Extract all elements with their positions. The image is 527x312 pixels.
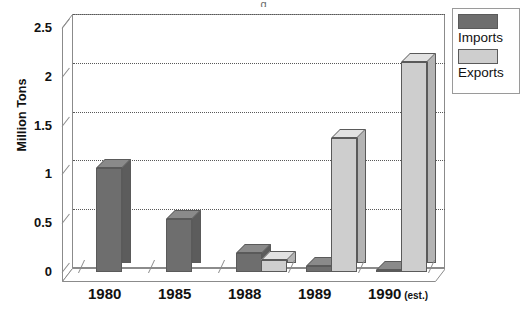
bar-side-face [427, 53, 436, 263]
bar-front-face [261, 260, 287, 272]
bar-chart: g Million Tons 00.511.522.5 198019851988… [0, 0, 527, 312]
x-label-1988: 1988 [228, 285, 261, 302]
x-label-text: 1988 [228, 285, 261, 302]
x-label-suffix: (est.) [401, 290, 428, 301]
x-label-1989: 1989 [298, 285, 331, 302]
legend-swatch-exports [458, 49, 498, 64]
x-axis-labels: 19801985198819891990 (est.) [62, 285, 462, 309]
y-tick-label: 2.5 [8, 21, 52, 34]
x-label-text: 1990 [368, 285, 401, 302]
bar-imports-1988[interactable] [236, 253, 262, 272]
y-tick-label: 0 [8, 265, 52, 278]
bar-series-group [62, 14, 445, 282]
legend-item-imports: Imports [458, 14, 514, 46]
bar-exports-1989[interactable] [331, 138, 357, 272]
legend-item-exports: Exports [458, 49, 514, 81]
bar-imports-1980[interactable] [96, 168, 122, 272]
x-label-text: 1980 [88, 285, 121, 302]
bar-front-face [331, 138, 357, 272]
x-label-text: 1989 [298, 285, 331, 302]
y-tick-label: 2 [8, 70, 52, 83]
legend-label-imports: Imports [458, 30, 514, 46]
bar-front-face [236, 253, 262, 272]
bar-front-face [376, 270, 402, 272]
y-tick-label: 1 [8, 167, 52, 180]
plot-area [62, 14, 445, 282]
bar-front-face [401, 62, 427, 272]
y-tick-label: 1.5 [8, 119, 52, 132]
bar-side-face [122, 159, 131, 263]
bar-front-face [96, 168, 122, 272]
x-label-1990: 1990 (est.) [368, 285, 428, 302]
bar-front-face [306, 266, 332, 272]
bar-front-face [166, 219, 192, 272]
legend-swatch-imports [458, 14, 498, 29]
x-label-1985: 1985 [158, 285, 191, 302]
chart-legend: Imports Exports [452, 8, 520, 94]
y-axis-tick-labels: 00.511.522.5 [8, 0, 52, 312]
chart-title-clipped: g [0, 0, 527, 7]
y-tick-label: 0.5 [8, 216, 52, 229]
bar-imports-1985[interactable] [166, 219, 192, 272]
bar-side-face [192, 210, 201, 263]
bar-imports-1989[interactable] [306, 266, 332, 272]
bar-imports-1990[interactable] [376, 270, 402, 272]
bar-side-face [357, 129, 366, 263]
bar-exports-1988[interactable] [261, 260, 287, 272]
x-label-text: 1985 [158, 285, 191, 302]
bar-exports-1990[interactable] [401, 62, 427, 272]
legend-label-exports: Exports [458, 65, 514, 81]
x-label-1980: 1980 [88, 285, 121, 302]
